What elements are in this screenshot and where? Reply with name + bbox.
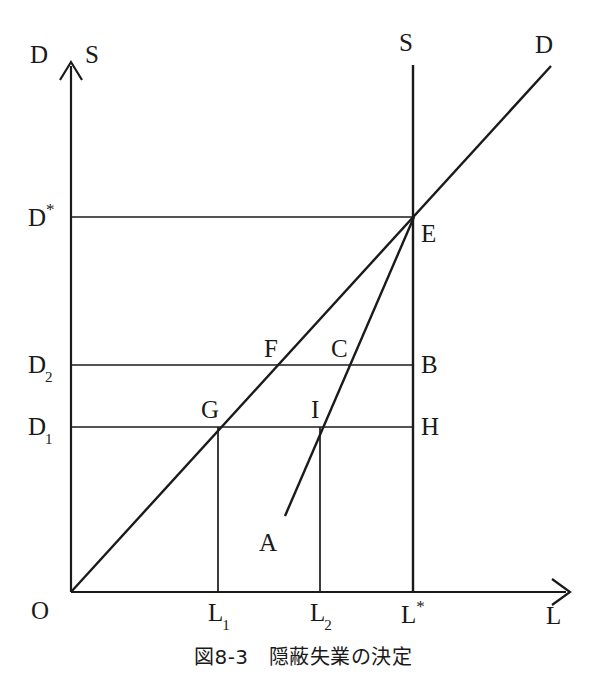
economics-diagram	[0, 0, 606, 700]
y-tick-d1-base: D	[28, 413, 46, 440]
x-tick-lstar-sup: *	[416, 597, 425, 616]
x-tick-l1: L1	[208, 600, 231, 630]
point-label-C: C	[331, 336, 348, 361]
x-tick-l2: L2	[310, 600, 333, 630]
y-axis	[60, 62, 82, 592]
y-axis-label-supply: S	[85, 42, 99, 67]
point-label-B: B	[421, 352, 438, 377]
y-tick-dstar-base: D	[28, 204, 46, 231]
y-tick-dstar: D*	[28, 203, 55, 230]
figure-caption: 図8-3隠蔽失業の決定	[0, 641, 606, 670]
point-label-A: A	[259, 530, 277, 555]
x-tick-l1-sub: 1	[222, 617, 230, 633]
y-tick-d1: D1	[28, 414, 54, 444]
supply-curve-label: S	[399, 30, 413, 55]
origin-label: O	[31, 598, 49, 623]
point-label-H: H	[421, 414, 439, 439]
x-tick-l2-sub: 2	[324, 617, 332, 633]
point-label-I: I	[311, 397, 319, 422]
y-axis-label-demand: D	[30, 42, 48, 67]
x-tick-l2-base: L	[310, 599, 325, 626]
point-label-F: F	[264, 336, 278, 361]
x-tick-lstar: L*	[401, 600, 425, 627]
demand-curve-label: D	[535, 32, 553, 57]
y-tick-d2-sub: 2	[45, 369, 53, 385]
point-label-E: E	[421, 221, 436, 246]
y-tick-d2-base: D	[28, 351, 46, 378]
demand-line-45deg	[71, 66, 551, 592]
y-tick-d1-sub: 1	[45, 431, 53, 447]
y-tick-d2: D2	[28, 352, 54, 382]
y-tick-dstar-sup: *	[46, 200, 55, 219]
figure-container: D S L O S D D* D2 D1 L1 L2 L* E F C B G …	[0, 0, 606, 700]
x-tick-l1-base: L	[208, 599, 223, 626]
point-label-G: G	[201, 397, 219, 422]
figure-number: 図8-3	[194, 645, 249, 669]
x-tick-lstar-base: L	[401, 601, 416, 628]
figure-title: 隠蔽失業の決定	[269, 645, 413, 669]
line-AE	[285, 217, 414, 516]
x-axis-label-labor: L	[546, 603, 561, 628]
